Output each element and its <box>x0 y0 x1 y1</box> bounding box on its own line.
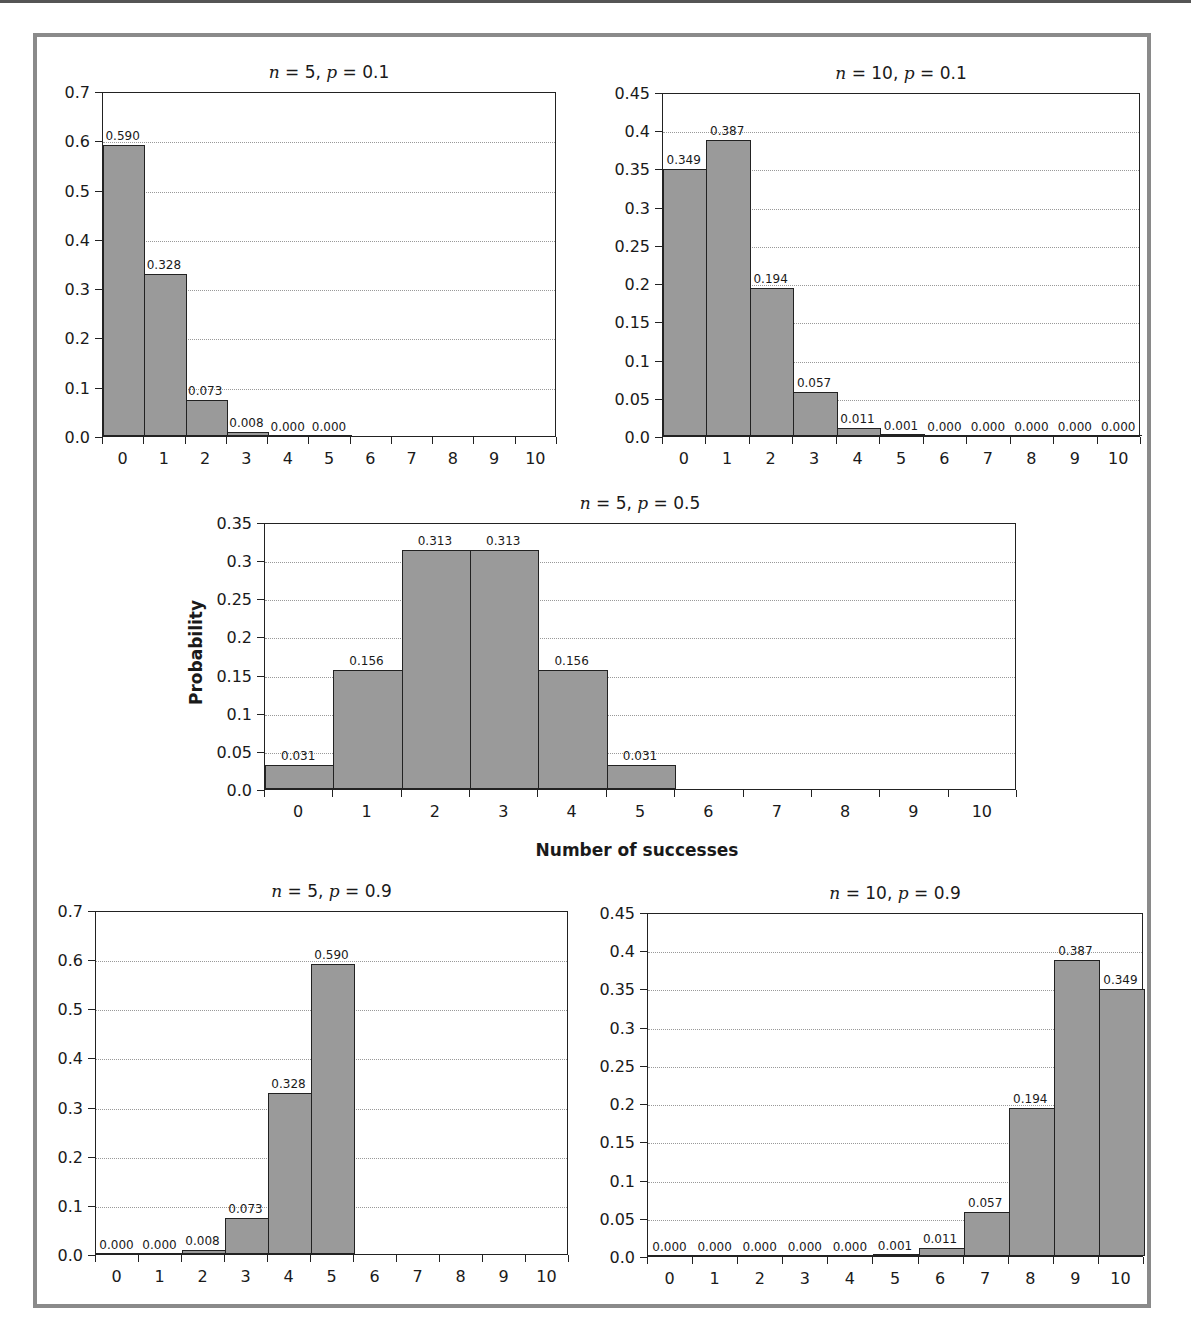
p-symbol: p <box>898 883 909 903</box>
x-tick-label: 0 <box>111 1267 121 1286</box>
x-tick-label: 9 <box>1070 1269 1080 1288</box>
y-tick-label: 0.2 <box>202 628 252 647</box>
y-tick <box>640 1066 647 1067</box>
bar-value-label: 0.000 <box>697 1240 731 1254</box>
y-tick-label: 0.3 <box>40 280 90 299</box>
x-tick <box>264 790 265 797</box>
bar <box>880 434 924 436</box>
y-tick-label: 0.35 <box>600 160 650 179</box>
y-tick <box>655 131 662 132</box>
y-tick <box>88 1206 95 1207</box>
y-tick-label: 0.3 <box>585 1018 635 1037</box>
y-tick-label: 0.0 <box>585 1248 635 1267</box>
x-tick-label: 6 <box>703 802 713 821</box>
y-tick <box>655 93 662 94</box>
y-tick-label: 0.05 <box>202 742 252 761</box>
y-tick-label: 0.15 <box>600 313 650 332</box>
x-tick-label: 4 <box>845 1269 855 1288</box>
x-tick-label: 1 <box>722 449 732 468</box>
bar <box>607 765 676 789</box>
n-symbol: n <box>271 881 282 901</box>
bar-value-label: 0.031 <box>623 749 657 763</box>
x-tick <box>836 437 837 444</box>
x-tick-label: 1 <box>710 1269 720 1288</box>
y-tick-label: 0.2 <box>600 275 650 294</box>
x-tick <box>439 1255 440 1262</box>
y-tick-label: 0.3 <box>600 198 650 217</box>
p-symbol: p <box>904 63 915 83</box>
x-tick <box>226 437 227 444</box>
bar <box>182 1250 226 1254</box>
x-tick <box>872 1257 873 1264</box>
n-symbol: n <box>835 63 846 83</box>
bar <box>225 1218 269 1254</box>
bar <box>663 169 707 436</box>
y-tick-label: 0.35 <box>202 514 252 533</box>
n-value: = 5, <box>282 881 329 901</box>
x-tick-label: 0 <box>679 449 689 468</box>
y-tick-label: 0.1 <box>600 351 650 370</box>
x-tick <box>95 1255 96 1262</box>
y-tick-label: 0.4 <box>33 1049 83 1068</box>
x-tick-label: 0 <box>664 1269 674 1288</box>
y-tick <box>655 169 662 170</box>
x-tick-label: 8 <box>455 1267 465 1286</box>
y-tick <box>655 284 662 285</box>
y-tick <box>640 989 647 990</box>
bar-value-label: 0.000 <box>1101 420 1135 434</box>
x-tick <box>138 1255 139 1262</box>
y-tick-label: 0.25 <box>600 236 650 255</box>
y-tick <box>257 752 264 753</box>
bar <box>470 550 539 789</box>
x-tick-label: 2 <box>200 449 210 468</box>
x-tick-label: 1 <box>154 1267 164 1286</box>
x-tick <box>705 437 706 444</box>
y-tick <box>257 561 264 562</box>
bar-value-label: 0.000 <box>833 1240 867 1254</box>
y-tick <box>95 92 102 93</box>
bar <box>924 435 968 437</box>
bar-value-label: 0.001 <box>878 1239 912 1253</box>
bar <box>919 1248 965 1256</box>
x-tick <box>181 1255 182 1262</box>
y-tick <box>257 523 264 524</box>
y-tick-label: 0.0 <box>33 1246 83 1265</box>
y-axis-title: Probability <box>186 605 206 705</box>
bar-value-label: 0.387 <box>1058 944 1092 958</box>
x-tick-label: 4 <box>852 449 862 468</box>
bar <box>964 1212 1010 1256</box>
bar <box>1054 435 1098 437</box>
p-symbol: p <box>637 493 648 513</box>
x-tick-label: 7 <box>406 449 416 468</box>
x-tick <box>966 437 967 444</box>
x-tick <box>537 790 538 797</box>
bar-value-label: 0.011 <box>923 1232 957 1246</box>
x-tick <box>1008 1257 1009 1264</box>
x-tick <box>391 437 392 444</box>
p-value: = 0.1 <box>337 62 389 82</box>
x-tick-label: 8 <box>1026 449 1036 468</box>
bar-value-label: 0.000 <box>927 420 961 434</box>
y-tick <box>257 676 264 677</box>
bar-value-label: 0.000 <box>652 1240 686 1254</box>
y-tick-label: 0.45 <box>600 84 650 103</box>
y-tick <box>95 289 102 290</box>
plot-area <box>662 93 1140 437</box>
bar-value-label: 0.000 <box>312 420 346 434</box>
x-tick-label: 6 <box>935 1269 945 1288</box>
x-axis-title: Number of successes <box>536 840 739 860</box>
gridline <box>103 241 555 242</box>
bar-value-label: 0.008 <box>229 416 263 430</box>
y-tick-label: 0.35 <box>585 980 635 999</box>
x-tick-label: 2 <box>197 1267 207 1286</box>
n-value: = 10, <box>840 883 898 903</box>
bar <box>837 428 881 436</box>
x-tick <box>674 790 675 797</box>
bar <box>738 1255 784 1257</box>
x-tick-label: 4 <box>283 1267 293 1286</box>
y-tick <box>88 1157 95 1158</box>
bar <box>1011 435 1055 437</box>
bar <box>227 432 269 436</box>
x-tick <box>396 1255 397 1262</box>
x-tick-label: 5 <box>324 449 334 468</box>
